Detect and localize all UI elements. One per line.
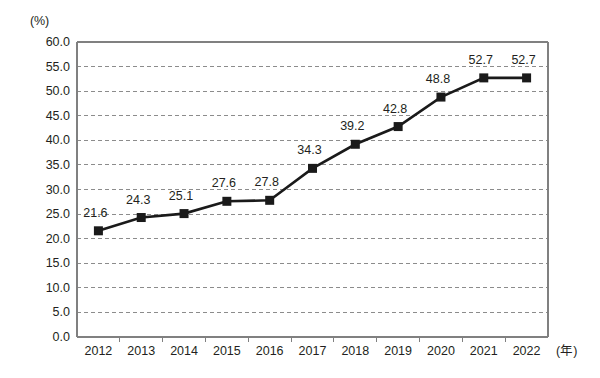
- data-point-label: 21.6: [83, 207, 107, 220]
- x-axis-tick-label: 2013: [127, 345, 155, 358]
- x-axis-unit-label: (年): [556, 345, 577, 358]
- data-point-label: 39.2: [340, 120, 364, 133]
- data-point-label: 52.7: [511, 54, 535, 67]
- data-point-label: 25.1: [169, 190, 193, 203]
- x-axis-tick-labels: 2012201320142015201620172018201920202021…: [0, 0, 600, 378]
- data-point-label: 27.6: [212, 177, 236, 190]
- data-point-label: 27.8: [255, 176, 279, 189]
- data-point-label: 52.7: [469, 54, 493, 67]
- data-point-label: 48.8: [426, 73, 450, 86]
- x-axis-tick-label: 2020: [427, 345, 455, 358]
- x-axis-tick-label: 2021: [470, 345, 498, 358]
- x-axis-tick-label: 2017: [299, 345, 327, 358]
- line-chart: (%) 60.055.050.045.040.035.030.025.020.0…: [0, 0, 600, 378]
- data-point-label: 34.3: [297, 144, 321, 157]
- x-axis-tick-label: 2014: [170, 345, 198, 358]
- x-axis-tick-label: 2015: [213, 345, 241, 358]
- x-axis-tick-label: 2018: [341, 345, 369, 358]
- x-axis-tick-label: 2012: [85, 345, 113, 358]
- x-axis-tick-label: 2016: [256, 345, 284, 358]
- x-axis-tick-label: 2019: [384, 345, 412, 358]
- x-axis-tick-label: 2022: [513, 345, 541, 358]
- data-point-label: 42.8: [383, 103, 407, 116]
- data-point-label: 24.3: [126, 194, 150, 207]
